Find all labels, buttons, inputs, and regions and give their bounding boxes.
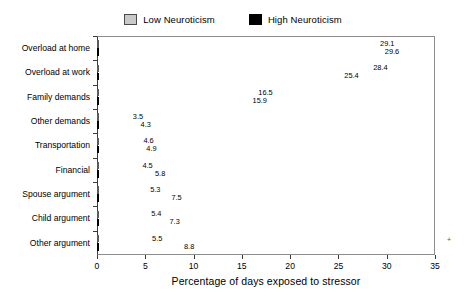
category-label: Overload at work [25,67,90,77]
bar-low [97,138,99,146]
category-label: Transportation [35,140,90,150]
bar-group-high: 8.8 [97,243,182,251]
x-axis-tick [338,255,339,259]
high-neuroticism-swatch-icon [249,14,262,25]
legend-entry-low-neuroticism: Low Neuroticism [124,14,215,25]
x-axis-tick [194,255,195,259]
chart-row: Spouse argument5.37.5 [97,182,435,206]
bar-value-label: 4.3 [141,121,151,129]
x-axis-tick [97,255,98,259]
chart-row: Overload at home29.129.6 [97,36,435,60]
bar-value-label: 29.6 [385,48,399,56]
bar-group-low: 5.5 [97,235,150,243]
x-axis-tick [387,255,388,259]
bar-low [97,235,99,243]
x-axis-title: Percentage of days exposed to stressor [97,275,435,287]
bar-low [97,89,99,97]
category-label: Other demands [31,116,90,126]
bar-low [97,162,99,170]
bar-group-high: 7.5 [97,194,169,202]
x-axis-tick [435,255,436,259]
chart-row: Other demands3.54.3 [97,109,435,133]
bar-value-label: 8.8 [184,243,194,251]
y-axis-tick [93,231,97,232]
bar-high [97,146,99,154]
bar-group-low: 5.4 [97,211,149,219]
legend-label-high-neuroticism: High Neuroticism [268,14,342,25]
bar-high [97,73,99,81]
x-axis-tick-label: 5 [143,261,148,271]
bar-value-label: 4.5 [142,162,152,170]
category-label: Family demands [27,92,90,102]
bar-group-high: 4.9 [97,146,144,154]
bar-group-high: 4.3 [97,121,139,129]
bar-low [97,113,99,121]
bar-high [97,219,99,227]
bar-value-label: 5.4 [151,210,161,218]
bar-low [97,40,99,48]
chart-row: Family demands16.515.9 [97,85,435,109]
y-axis-tick [93,109,97,110]
low-neuroticism-swatch-icon [124,14,137,25]
y-axis-tick [93,133,97,134]
chart-row: Transportation4.64.9 [97,133,435,157]
bar-value-label: 5.8 [155,170,165,178]
bar-group-low: 4.5 [97,162,140,170]
bar-group-high: 25.4 [97,73,342,81]
category-label: Child argument [32,213,90,223]
chart-row: Financial4.55.8 [97,158,435,182]
x-axis: 05101520253035 [97,255,435,256]
bar-low [97,186,99,194]
y-axis-tick [93,60,97,61]
x-axis-tick [290,255,291,259]
category-label: Other argument [30,238,90,248]
chart-legend: Low Neuroticism High Neuroticism [0,14,466,25]
bar-value-label: 28.4 [373,64,387,72]
bar-chart: Low Neuroticism High Neuroticism Overloa… [0,0,466,300]
bar-group-high: 29.6 [97,48,383,56]
bar-high [97,48,99,56]
category-label: Financial [56,165,90,175]
bar-high [97,243,99,251]
y-axis-tick [93,36,97,37]
y-axis-tick [93,158,97,159]
chart-row: Overload at work28.425.4 [97,60,435,84]
x-axis-tick-label: 35 [430,261,440,271]
x-axis-tick-label: 15 [237,261,247,271]
bar-value-label: 15.9 [253,97,267,105]
bar-group-low: 29.1 [97,40,378,48]
bar-high [97,170,99,178]
bar-high [97,97,99,105]
x-axis-tick-label: 0 [95,261,100,271]
chart-row: Child argument5.47.3 [97,206,435,230]
x-axis-tick-label: 20 [285,261,295,271]
bar-value-label: 4.9 [146,145,156,153]
bar-low [97,211,99,219]
bar-value-label: 5.3 [150,186,160,194]
x-axis-tick [242,255,243,259]
bar-value-label: 7.3 [169,218,179,226]
bar-group-low: 4.6 [97,138,141,146]
bar-high [97,121,99,129]
bar-value-label: 7.5 [171,194,181,202]
bar-value-label: 5.5 [152,235,162,243]
bar-group-high: 15.9 [97,97,251,105]
bar-group-high: 5.8 [97,170,153,178]
chart-row: Other argument5.58.8 [97,231,435,255]
bar-group-low: 5.3 [97,186,148,194]
category-label: Spouse argument [22,189,90,199]
category-label: Overload at home [22,43,90,53]
bar-group-high: 7.3 [97,219,167,227]
bar-group-low: 16.5 [97,89,256,97]
legend-entry-high-neuroticism: High Neuroticism [249,14,342,25]
y-axis-tick [93,206,97,207]
x-axis-tick-label: 25 [334,261,344,271]
bar-value-label: 25.4 [344,72,358,80]
y-axis-tick [93,182,97,183]
bar-high [97,194,99,202]
bar-group-low: 28.4 [97,65,371,73]
x-axis-tick [145,255,146,259]
x-axis-tick-label: 30 [382,261,392,271]
y-axis-tick [93,85,97,86]
legend-label-low-neuroticism: Low Neuroticism [143,14,215,25]
